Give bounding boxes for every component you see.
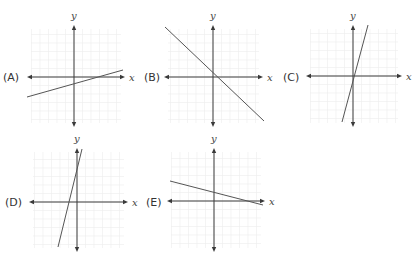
graph-e: (E)xy [146, 133, 275, 252]
x-axis-label: x [132, 197, 138, 208]
arrow-down-icon [211, 122, 215, 127]
arrow-down-icon [72, 122, 76, 127]
y-axis-label: y [209, 10, 216, 21]
graph-label: (D) [5, 196, 22, 209]
x-axis-label: x [269, 196, 275, 207]
arrow-left-icon [164, 75, 169, 79]
arrow-up-icon [351, 25, 355, 30]
grid [31, 29, 121, 123]
arrow-right-icon [120, 75, 125, 79]
arrow-left-icon [29, 200, 34, 204]
plotted-line [27, 70, 123, 97]
x-axis-label: x [406, 71, 412, 82]
graph-label: (A) [3, 71, 19, 84]
grid [33, 152, 124, 248]
arrow-down-icon [212, 247, 216, 252]
arrow-down-icon [75, 247, 79, 252]
arrow-right-icon [260, 199, 265, 203]
arrow-right-icon [123, 200, 128, 204]
y-axis-label: y [349, 10, 356, 21]
graph-label: (B) [144, 71, 160, 84]
y-axis-label: y [210, 133, 217, 144]
graphs-canvas: (A)xy(B)xy(C)xy(D)xy(E)xy [0, 0, 420, 256]
graph-d: (D)xy [5, 133, 138, 252]
x-axis-label: x [267, 72, 273, 83]
x-axis-label: x [129, 72, 135, 83]
y-axis-label: y [73, 133, 80, 144]
arrow-up-icon [211, 25, 215, 30]
arrow-up-icon [75, 148, 79, 153]
grid [171, 152, 261, 248]
arrow-up-icon [212, 148, 216, 153]
arrow-down-icon [351, 122, 355, 127]
graph-label: (C) [283, 71, 299, 84]
arrow-left-icon [306, 74, 311, 78]
plotted-line [165, 27, 264, 121]
graph-a: (A)xy [3, 10, 135, 127]
y-axis-label: y [70, 10, 77, 21]
graph-c: (C)xy [283, 10, 412, 127]
plotted-line [58, 149, 82, 247]
arrow-left-icon [27, 75, 32, 79]
graph-b: (B)xy [144, 10, 273, 127]
arrow-left-icon [167, 199, 172, 203]
plotted-line [342, 25, 368, 122]
arrow-right-icon [397, 74, 402, 78]
arrow-right-icon [258, 75, 263, 79]
arrow-up-icon [72, 25, 76, 30]
graph-label: (E) [146, 196, 162, 209]
